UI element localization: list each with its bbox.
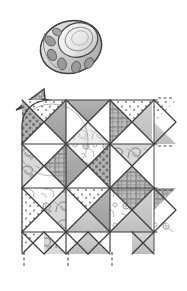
quilt-diagram-svg (0, 0, 187, 291)
quilt-grid (16, 98, 176, 266)
illustration-canvas (0, 0, 187, 291)
